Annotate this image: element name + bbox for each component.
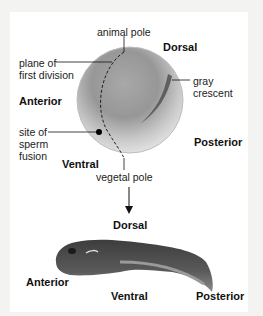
tadpole-image: [56, 240, 213, 292]
egg-ventral-label: Ventral: [62, 158, 99, 170]
sperm-fusion-dot: [96, 129, 102, 135]
sperm-label-line3: fusion: [19, 150, 47, 162]
plane-label-line1: plane of: [19, 57, 56, 69]
egg-dorsal-label: Dorsal: [163, 41, 197, 53]
plane-label-line2: first division: [19, 69, 74, 81]
tadpole-dorsal-label: Dorsal: [113, 219, 147, 231]
gray-crescent-label-line2: crescent: [193, 87, 233, 99]
animal-pole-label: animal pole: [97, 26, 151, 38]
egg-anterior-label: Anterior: [19, 95, 62, 107]
tadpole-ventral-label: Ventral: [111, 290, 148, 302]
vegetal-pole-label: vegetal pole: [96, 171, 153, 183]
tadpole-posterior-label: Posterior: [196, 290, 244, 302]
sperm-label-line1: site of: [19, 126, 47, 138]
tadpole-anterior-label: Anterior: [26, 276, 69, 288]
gray-crescent-label-line1: gray: [193, 75, 213, 87]
egg-posterior-label: Posterior: [194, 136, 242, 148]
sperm-label-line2: sperm: [19, 138, 48, 150]
egg-sphere: [77, 47, 183, 153]
arrow-down-icon: [125, 206, 133, 214]
